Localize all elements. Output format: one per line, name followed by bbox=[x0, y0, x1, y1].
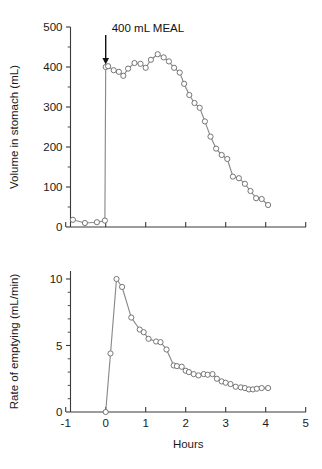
y-tick-label: 0 bbox=[56, 221, 62, 233]
data-point-marker bbox=[210, 371, 215, 376]
data-point-marker bbox=[94, 220, 99, 225]
figure-container: 0100200300400500Volume in stomach (mL)40… bbox=[0, 0, 322, 469]
data-point-marker bbox=[114, 276, 119, 281]
data-point-marker bbox=[103, 409, 108, 414]
data-point-marker bbox=[116, 69, 121, 74]
data-point-marker bbox=[102, 218, 107, 223]
data-point-marker bbox=[132, 60, 137, 65]
x-tick-label: 2 bbox=[182, 417, 188, 429]
data-point-marker bbox=[214, 146, 219, 151]
data-point-marker bbox=[143, 65, 148, 70]
x-tick-label: 3 bbox=[222, 417, 228, 429]
data-point-marker bbox=[108, 351, 113, 356]
data-point-marker bbox=[177, 70, 182, 75]
data-point-marker bbox=[182, 81, 187, 86]
panel-rate: 0510-1012345Rate of emptying (mL/min)Hou… bbox=[8, 271, 309, 450]
data-point-marker bbox=[248, 188, 253, 193]
data-point-marker bbox=[259, 385, 264, 390]
data-point-marker bbox=[233, 384, 238, 389]
x-axis-title: Hours bbox=[173, 438, 204, 450]
y-axis-title: Volume in stomach (mL) bbox=[8, 65, 20, 189]
data-point-marker bbox=[121, 73, 126, 78]
data-point-marker bbox=[158, 340, 163, 345]
data-point-marker bbox=[225, 156, 230, 161]
data-point-marker bbox=[219, 152, 224, 157]
x-tick-label: 0 bbox=[102, 417, 108, 429]
data-point-marker bbox=[120, 284, 125, 289]
x-tick-label: 1 bbox=[142, 417, 148, 429]
data-point-marker bbox=[197, 105, 202, 110]
data-point-marker bbox=[126, 66, 131, 71]
data-point-marker bbox=[266, 202, 271, 207]
data-point-marker bbox=[266, 385, 271, 390]
data-point-marker bbox=[192, 100, 197, 105]
data-point-marker bbox=[148, 57, 153, 62]
data-point-marker bbox=[202, 119, 207, 124]
y-tick-label: 200 bbox=[43, 141, 62, 153]
series-line bbox=[106, 279, 268, 412]
data-point-marker bbox=[166, 59, 171, 64]
data-point-marker bbox=[196, 373, 201, 378]
two-panel-line-chart: 0100200300400500Volume in stomach (mL)40… bbox=[0, 0, 322, 469]
data-point-marker bbox=[129, 315, 134, 320]
data-point-marker bbox=[236, 176, 241, 181]
data-point-marker bbox=[230, 174, 235, 179]
y-tick-label: 10 bbox=[50, 273, 63, 285]
data-point-marker bbox=[106, 64, 111, 69]
data-point-marker bbox=[179, 364, 184, 369]
panel-volume: 0100200300400500Volume in stomach (mL)40… bbox=[8, 21, 306, 233]
y-tick-label: 500 bbox=[43, 21, 62, 33]
x-tick-label: -1 bbox=[61, 417, 71, 429]
x-tick-label: 4 bbox=[262, 417, 269, 429]
data-point-marker bbox=[155, 52, 160, 57]
data-point-marker bbox=[141, 330, 146, 335]
x-tick-label: 5 bbox=[302, 417, 308, 429]
data-point-marker bbox=[208, 134, 213, 139]
data-point-marker bbox=[138, 61, 143, 66]
data-point-marker bbox=[111, 68, 116, 73]
data-point-marker bbox=[228, 381, 233, 386]
meal-annotation-label: 400 mL MEAL bbox=[112, 22, 185, 34]
y-tick-label: 5 bbox=[56, 340, 62, 352]
y-tick-label: 300 bbox=[43, 101, 62, 113]
series-line bbox=[73, 54, 268, 223]
data-point-marker bbox=[214, 376, 219, 381]
data-point-marker bbox=[172, 65, 177, 70]
data-point-marker bbox=[242, 181, 247, 186]
y-tick-label: 100 bbox=[43, 181, 62, 193]
data-point-marker bbox=[254, 196, 259, 201]
data-point-marker bbox=[259, 196, 264, 201]
data-point-marker bbox=[146, 336, 151, 341]
data-point-marker bbox=[82, 220, 87, 225]
y-tick-label: 400 bbox=[43, 61, 62, 73]
data-point-marker bbox=[187, 92, 192, 97]
data-point-marker bbox=[161, 55, 166, 60]
y-axis-title: Rate of emptying (mL/min) bbox=[8, 274, 20, 410]
data-point-marker bbox=[164, 347, 169, 352]
data-point-marker bbox=[70, 217, 75, 222]
